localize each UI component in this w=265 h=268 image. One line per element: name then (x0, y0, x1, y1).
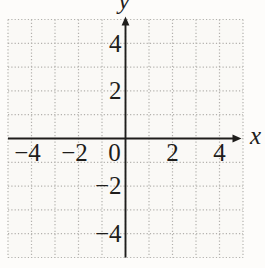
coordinate-plane-figure: −4−202442−2−4 x y (0, 0, 265, 268)
coordinate-grid: −4−202442−2−4 x y (0, 0, 265, 268)
x-tick-label: 0 (108, 139, 121, 166)
x-tick-label: −2 (61, 139, 88, 166)
x-tick-label: −4 (14, 139, 41, 166)
y-axis-label: y (115, 0, 130, 14)
y-tick-label: 4 (109, 30, 122, 57)
x-tick-label: 2 (166, 139, 179, 166)
x-tick-label: 4 (213, 139, 226, 166)
y-tick-label: 2 (109, 77, 122, 104)
y-tick-label: −2 (95, 172, 122, 199)
x-axis-label: x (249, 122, 261, 149)
y-tick-label: −4 (95, 220, 122, 247)
